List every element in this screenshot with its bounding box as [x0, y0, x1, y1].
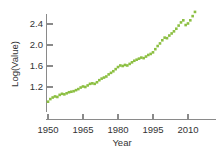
data-point	[89, 83, 92, 86]
data-point	[98, 79, 101, 82]
y-axis-tick-labels: 1.21.62.02.4	[30, 18, 43, 92]
y-tick-label: 2.0	[30, 39, 43, 50]
data-point	[161, 39, 164, 42]
data-point	[79, 86, 82, 89]
x-axis-group: 19501965198019952010 Year	[37, 114, 216, 149]
log-value-year-scatter-chart: 1.21.62.02.4 Log(Value) 1950196519801995…	[0, 0, 222, 153]
data-point	[138, 57, 141, 60]
data-point	[168, 34, 171, 37]
data-point	[184, 24, 187, 27]
data-point	[166, 37, 169, 40]
data-point	[156, 45, 159, 48]
data-point	[117, 66, 120, 69]
data-point	[180, 21, 183, 24]
data-point	[72, 90, 75, 93]
data-point	[159, 42, 162, 45]
data-point	[121, 65, 124, 68]
data-point	[107, 73, 110, 76]
data-point	[86, 84, 89, 87]
data-point	[63, 93, 66, 96]
data-point	[100, 77, 103, 80]
data-point	[105, 75, 108, 78]
data-point	[154, 48, 157, 51]
x-axis-tick-labels: 19501965198019952010	[37, 124, 198, 135]
x-tick-label: 1980	[107, 124, 128, 135]
data-point	[175, 27, 178, 30]
data-point	[145, 55, 148, 58]
y-axis-title: Log(Value)	[9, 41, 20, 87]
data-point	[131, 61, 134, 64]
x-tick-label: 1950	[37, 124, 58, 135]
data-point	[110, 72, 113, 75]
data-point	[84, 86, 87, 89]
data-point	[163, 36, 166, 39]
data-point	[54, 95, 57, 98]
data-point	[187, 22, 190, 25]
data-point	[91, 82, 94, 85]
data-point	[142, 57, 145, 60]
data-point	[140, 56, 143, 59]
x-tick-label: 1995	[142, 124, 163, 135]
data-point	[124, 64, 127, 67]
chart-container: 1.21.62.02.4 Log(Value) 1950196519801995…	[0, 0, 222, 153]
data-point	[177, 24, 180, 27]
x-axis-title: Year	[112, 137, 131, 148]
data-point	[96, 81, 99, 84]
data-point	[182, 19, 185, 22]
data-point	[103, 76, 106, 79]
x-axis-ticks	[48, 114, 188, 120]
data-point	[152, 51, 155, 54]
data-point	[194, 11, 197, 14]
data-point	[61, 93, 64, 96]
data-point	[77, 88, 80, 91]
x-tick-label: 2010	[177, 124, 198, 135]
data-point	[112, 70, 115, 73]
data-point	[93, 83, 96, 86]
series-Log(Value)	[47, 11, 197, 103]
y-tick-label: 1.2	[30, 81, 43, 92]
data-point	[133, 59, 136, 62]
data-point	[119, 64, 122, 67]
data-point	[65, 92, 68, 95]
y-axis-group: 1.21.62.02.4 Log(Value)	[9, 14, 53, 112]
data-point	[82, 85, 85, 88]
y-tick-label: 1.6	[30, 60, 43, 71]
data-point	[51, 96, 54, 99]
data-point	[126, 64, 129, 67]
data-point	[191, 15, 194, 18]
data-point	[68, 91, 71, 94]
x-tick-label: 1965	[72, 124, 93, 135]
data-point	[170, 32, 173, 35]
data-point	[128, 63, 131, 66]
data-point	[114, 68, 117, 71]
data-point	[70, 90, 73, 93]
data-point	[58, 94, 61, 97]
data-point	[135, 58, 138, 61]
y-axis-ticks	[47, 24, 54, 87]
data-point-series	[47, 11, 197, 103]
data-point	[49, 98, 52, 101]
data-point	[47, 100, 50, 103]
data-point	[189, 19, 192, 22]
data-point	[75, 89, 78, 92]
y-tick-label: 2.4	[30, 18, 43, 29]
data-point	[147, 54, 150, 57]
data-point	[56, 96, 59, 99]
data-point	[149, 53, 152, 56]
data-point	[173, 30, 176, 33]
